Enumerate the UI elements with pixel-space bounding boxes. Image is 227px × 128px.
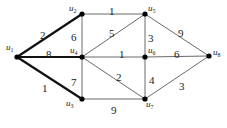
edge-weight-label: 3 (148, 32, 154, 44)
edge-u4-u7 (82, 57, 145, 99)
edge-weight-label: 1 (109, 5, 115, 17)
node-label-u4: u4 (70, 45, 78, 56)
edge-u7-u8 (145, 56, 209, 99)
edge-weight-label: 3 (179, 80, 185, 92)
edge-weight-label: 9 (111, 104, 117, 116)
edge-weight-label: 7 (71, 76, 77, 88)
node-u6 (142, 54, 147, 59)
edge-weight-label: 5 (109, 27, 115, 39)
edge-weight-label: 1 (42, 82, 48, 94)
edge-weight-label: 2 (40, 29, 46, 41)
node-u3 (79, 96, 84, 101)
node-u8 (206, 53, 211, 58)
node-u4 (79, 54, 84, 59)
node-u5 (142, 11, 147, 16)
edge-weight-label: 2 (116, 71, 122, 83)
edge-weight-label: 4 (149, 74, 155, 86)
node-label-u6: u6 (148, 45, 156, 56)
node-label-u5: u5 (148, 3, 156, 14)
node-label-u2: u2 (69, 3, 77, 14)
edge-weight-label: 8 (46, 48, 52, 60)
node-label-u1: u1 (6, 42, 14, 53)
edge-weight-label: 9 (178, 27, 184, 39)
node-label-u8: u8 (213, 47, 221, 58)
node-u1 (14, 54, 19, 59)
edge-weight-label: 6 (71, 31, 77, 43)
edge-weight-label: 6 (174, 48, 180, 60)
node-u2 (79, 11, 84, 16)
node-label-u7: u7 (146, 99, 154, 110)
edge-weight-label: 1 (119, 48, 125, 60)
weighted-graph-diagram: 281165172939643 u1u2u5u4u6u8u3u7 (0, 0, 227, 128)
node-label-u3: u3 (66, 98, 74, 109)
